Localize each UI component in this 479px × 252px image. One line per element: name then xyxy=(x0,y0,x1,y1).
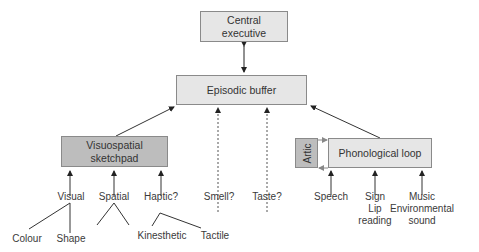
visuospatial-label-2: sketchpad xyxy=(91,152,139,165)
phonological-loop-label: Phonological loop xyxy=(339,147,422,160)
central-executive-label-1: Central xyxy=(227,14,261,27)
sub-input-kinesthetic: Kinesthetic xyxy=(138,230,187,242)
input-sign: Sign xyxy=(365,191,385,203)
phono-buffer-arrow xyxy=(311,106,380,138)
phonological-loop-box: Phonological loop xyxy=(328,138,432,168)
input-music: Music xyxy=(409,191,435,203)
artic-label: Artic xyxy=(300,143,313,163)
vssp-buffer-arrow xyxy=(116,107,174,136)
input-reading: reading xyxy=(358,215,391,227)
sub-input-tactile: Tactile xyxy=(201,230,229,242)
input-taste: Taste? xyxy=(252,191,281,203)
episodic-buffer-label: Episodic buffer xyxy=(207,84,276,97)
visuospatial-sketchpad-box: Visuospatial sketchpad xyxy=(61,136,168,167)
input-lip: Lip xyxy=(368,203,381,215)
sub-input-colour: Colour xyxy=(12,233,41,245)
central-executive-label-2: executive xyxy=(222,27,266,40)
input-speech: Speech xyxy=(314,191,348,203)
sub-input-shape: Shape xyxy=(57,233,86,245)
input-environmental: Environmental xyxy=(390,203,454,215)
input-smell: Smell? xyxy=(204,191,235,203)
input-sound: sound xyxy=(408,215,435,227)
central-executive-box: Central executive xyxy=(200,11,288,42)
input-spatial: Spatial xyxy=(99,191,130,203)
visuospatial-label-1: Visuospatial xyxy=(86,139,142,152)
episodic-buffer-box: Episodic buffer xyxy=(176,75,307,105)
input-visual: Visual xyxy=(57,191,84,203)
input-haptic: Haptic? xyxy=(144,191,178,203)
artic-box: Artic xyxy=(295,138,318,168)
